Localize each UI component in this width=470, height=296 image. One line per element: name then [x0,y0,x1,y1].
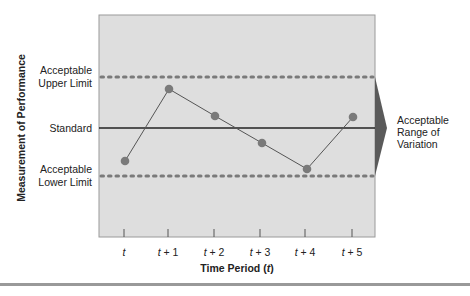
data-point [211,112,220,121]
range-label-1: Acceptable [397,114,449,126]
range-label-2: Range of [397,126,440,138]
y-axis-label: Measurement of Performance [15,54,27,202]
upper-limit-label-1: Acceptable [40,64,92,76]
lower-limit-label-1: Acceptable [40,163,92,175]
data-point [303,165,312,174]
data-point [121,157,130,166]
data-point [349,113,358,122]
data-point [165,85,174,94]
range-label-3: Variation [397,138,438,150]
tick-label: t + 4 [295,246,316,258]
x-tick-labels: t t + 1 t + 2 t + 3 t + 4 t + 5 [123,246,363,258]
x-axis-label: Time Period (t) [200,262,273,274]
upper-limit-label-2: Upper Limit [38,77,92,89]
bottom-rule [0,283,470,286]
plot-area [99,15,375,237]
tick-label: t + 1 [158,246,179,258]
tick-label: t + 3 [250,246,271,258]
tick-label: t + 5 [342,246,363,258]
standard-label: Standard [49,122,92,134]
tick-label: t + 2 [204,246,225,258]
range-arrow [375,77,387,176]
lower-limit-label-2: Lower Limit [38,176,92,188]
tick-label: t [123,246,127,258]
control-chart: Acceptable Upper Limit Standard Acceptab… [0,0,470,296]
data-point [258,139,267,148]
